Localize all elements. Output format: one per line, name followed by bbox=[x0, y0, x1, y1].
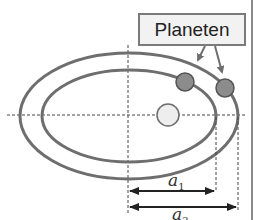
outer-orbit bbox=[20, 53, 238, 179]
a2-label: a2 bbox=[172, 204, 189, 220]
callout-text: Planeten bbox=[154, 19, 229, 41]
kepler-orbit-diagram: Planeten a1 a2 bbox=[0, 0, 255, 220]
callout-arrow-1 bbox=[198, 46, 205, 60]
sun bbox=[157, 104, 179, 126]
planet-outer-orbit bbox=[216, 79, 234, 97]
a1-label: a1 bbox=[168, 170, 185, 192]
callout-arrow-2 bbox=[215, 46, 222, 72]
planeten-callout-label: Planeten bbox=[138, 13, 246, 46]
planet-inner-orbit bbox=[176, 73, 194, 91]
